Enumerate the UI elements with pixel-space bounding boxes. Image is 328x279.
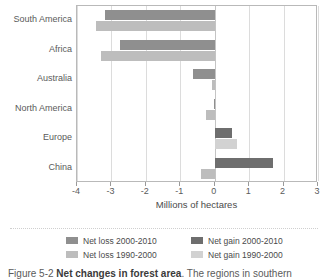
legend-item[interactable]: Net gain 1990-2000 — [191, 248, 283, 261]
bar — [101, 51, 215, 61]
legend-label: Net loss 1990-2000 — [83, 250, 157, 260]
y-axis-label: Africa — [0, 35, 72, 65]
gridline-3 — [318, 6, 319, 181]
x-tick-label: 1 — [236, 186, 260, 196]
y-axis-label: South America — [0, 5, 72, 35]
legend-swatch-icon — [66, 237, 78, 244]
x-tick-label: -2 — [133, 186, 157, 196]
category-band — [77, 36, 316, 66]
legend-swatch-icon — [191, 251, 203, 258]
bar — [206, 110, 215, 120]
legend-column-left: Net loss 2000-2010Net loss 1990-2000 — [66, 234, 157, 262]
x-tick-label: 0 — [202, 186, 226, 196]
y-axis-label: North America — [0, 94, 72, 124]
y-axis-label: China — [0, 153, 72, 183]
category-band — [77, 65, 316, 95]
legend-swatch-icon — [66, 251, 78, 258]
caption-strong: Net changes in forest area — [56, 268, 181, 279]
bar — [105, 10, 215, 20]
legend-column-right: Net gain 2000-2010Net gain 1990-2000 — [191, 234, 283, 262]
category-band — [77, 6, 316, 36]
bar — [201, 169, 215, 179]
x-axis-ticks: -4-3-2-10123 — [0, 182, 328, 198]
chart-legend: Net loss 2000-2010Net loss 1990-2000 Net… — [10, 228, 318, 262]
caption-rest: . The regions in southern — [181, 268, 291, 279]
legend-label: Net gain 2000-2010 — [208, 236, 283, 246]
x-axis-title: Millions of hectares — [76, 199, 317, 210]
plot-area — [76, 5, 317, 182]
bar — [215, 158, 274, 168]
category-band — [77, 95, 316, 125]
bar — [193, 69, 214, 79]
legend-swatch-icon — [191, 237, 203, 244]
bar — [215, 139, 237, 149]
y-axis-label: Europe — [0, 123, 72, 153]
caption-prefix: Figure 5-2 — [8, 268, 54, 279]
legend-label: Net gain 1990-2000 — [208, 250, 283, 260]
x-tick-label: -3 — [98, 186, 122, 196]
category-band — [77, 124, 316, 154]
legend-item[interactable]: Net gain 2000-2010 — [191, 234, 283, 247]
legend-item[interactable]: Net loss 2000-2010 — [66, 234, 157, 247]
y-axis-label: Australia — [0, 64, 72, 94]
bar — [212, 80, 215, 90]
bar — [96, 21, 215, 31]
x-tick-label: 2 — [271, 186, 295, 196]
figure-caption: Figure 5-2 Net changes in forest area. T… — [8, 268, 328, 279]
bar — [120, 40, 215, 50]
bar — [214, 99, 215, 109]
category-band — [77, 154, 316, 184]
x-tick-label: 3 — [305, 186, 328, 196]
bar — [215, 128, 232, 138]
legend-item[interactable]: Net loss 1990-2000 — [66, 248, 157, 261]
legend-label: Net loss 2000-2010 — [83, 236, 157, 246]
y-axis-category-labels: South AmericaAfricaAustraliaNorth Americ… — [0, 5, 72, 182]
x-tick-label: -4 — [64, 186, 88, 196]
x-tick-label: -1 — [167, 186, 191, 196]
